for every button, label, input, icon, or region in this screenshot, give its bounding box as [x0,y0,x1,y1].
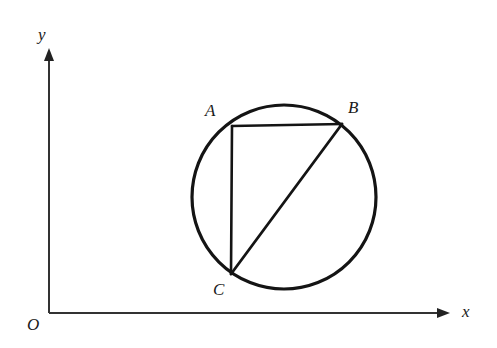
y-axis [44,48,54,313]
x-axis-arrowhead [437,308,450,318]
point-label-a: A [205,102,215,119]
origin-label: O [27,316,39,333]
segment-CB [231,124,342,274]
segment-AC [231,126,232,274]
x-axis-label: x [462,303,470,320]
segment-AB [232,124,342,126]
point-label-b: B [348,99,358,116]
y-axis-label: y [38,26,46,43]
x-axis [49,308,450,318]
figure-canvas: y x O A B C [0,0,497,348]
y-axis-arrowhead [44,48,54,61]
geometry-figure [0,0,497,348]
circumscribed-circle [192,105,376,289]
point-label-c: C [213,281,224,298]
